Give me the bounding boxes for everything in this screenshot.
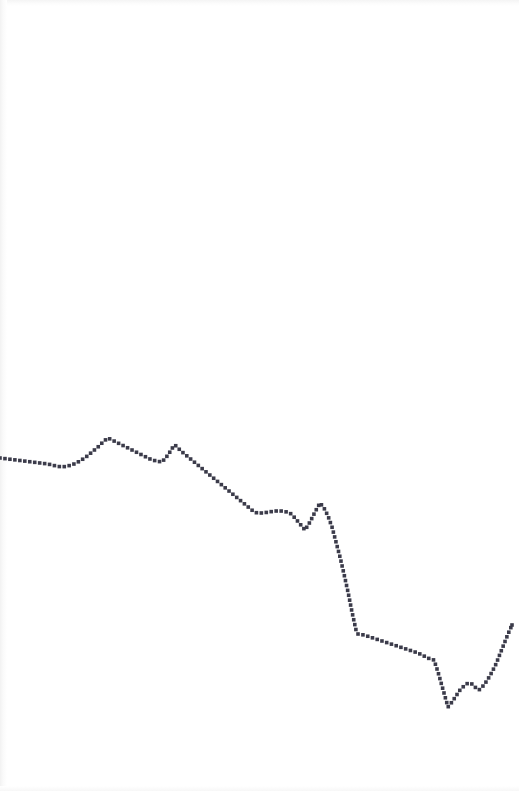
data-point-marker (0, 456, 2, 460)
data-point-marker (458, 689, 462, 693)
data-point-marker (337, 550, 341, 554)
data-point-marker (314, 508, 318, 512)
data-point-marker (250, 508, 254, 512)
data-point-marker (189, 457, 193, 461)
data-point-marker (197, 464, 201, 468)
data-point-marker (347, 593, 351, 597)
data-point-marker (444, 696, 448, 700)
data-point-marker (212, 476, 216, 480)
data-point-marker (354, 628, 358, 632)
data-point-marker (148, 457, 152, 461)
data-point-marker (53, 464, 57, 468)
data-point-marker (481, 684, 485, 688)
chart-figure (0, 0, 519, 791)
data-point-marker (352, 618, 356, 622)
data-point-marker (333, 535, 337, 539)
data-point-marker (413, 650, 417, 654)
data-point-marker (204, 470, 208, 474)
data-point-marker (498, 654, 502, 658)
data-point-marker (130, 448, 134, 452)
data-point-marker (77, 460, 81, 464)
data-point-marker (33, 461, 37, 465)
data-point-marker (494, 663, 498, 667)
data-point-marker (353, 623, 357, 627)
data-point-marker (223, 486, 227, 490)
data-point-marker (432, 658, 436, 662)
data-point-marker (366, 634, 370, 638)
data-point-marker (264, 511, 268, 515)
data-point-marker (227, 489, 231, 493)
data-point-marker (327, 516, 331, 520)
data-point-marker (13, 458, 17, 462)
data-point-marker (174, 444, 178, 448)
data-point-marker (409, 649, 413, 653)
data-point-marker (332, 530, 336, 534)
data-point-marker (399, 646, 403, 650)
data-point-marker (349, 603, 353, 607)
data-point-marker (325, 512, 329, 516)
data-point-marker (487, 676, 491, 680)
data-point-marker (235, 496, 239, 500)
data-point-marker (345, 584, 349, 588)
data-point-marker (356, 632, 360, 636)
data-point-marker (162, 458, 166, 462)
data-point-marker (112, 439, 116, 443)
data-point-marker (93, 448, 97, 452)
data-point-marker (329, 521, 333, 525)
data-point-marker (338, 554, 342, 558)
data-point-marker (496, 658, 500, 662)
data-point-marker (510, 623, 514, 627)
data-point-marker (501, 644, 505, 648)
data-point-marker (181, 451, 185, 455)
data-point-marker (8, 457, 12, 461)
data-point-marker (58, 465, 62, 469)
data-point-marker (126, 446, 130, 450)
data-point-marker (200, 467, 204, 471)
data-point-marker (390, 642, 394, 646)
data-point-marker (279, 509, 283, 513)
data-point-marker (461, 685, 465, 689)
data-point-marker (108, 437, 112, 441)
data-point-marker (48, 463, 52, 467)
data-point-marker (255, 511, 259, 515)
data-point-marker (455, 693, 459, 697)
series-1-marker-group (0, 437, 514, 708)
data-point-marker (284, 510, 288, 514)
data-point-marker (503, 640, 507, 644)
data-point-marker (435, 667, 439, 671)
data-point-marker (484, 680, 488, 684)
data-point-marker (153, 459, 157, 463)
data-point-marker (341, 569, 345, 573)
data-point-marker (139, 453, 143, 457)
data-point-marker (28, 460, 32, 464)
data-point-marker (100, 441, 104, 445)
data-point-marker (351, 613, 355, 617)
data-point-marker (117, 442, 121, 446)
data-point-marker (165, 455, 169, 459)
data-point-marker (434, 662, 438, 666)
data-point-marker (380, 639, 384, 643)
data-point-marker (340, 564, 344, 568)
data-point-marker (158, 460, 162, 464)
data-point-marker (350, 608, 354, 612)
data-point-marker (243, 502, 247, 506)
data-point-marker (422, 654, 426, 658)
data-point-marker (305, 525, 309, 529)
data-point-marker (168, 450, 172, 454)
data-point-marker (23, 459, 27, 463)
data-point-marker (246, 505, 250, 509)
data-point-marker (474, 686, 478, 690)
data-point-marker (289, 512, 293, 516)
data-point-marker (208, 473, 212, 477)
data-point-marker (38, 461, 42, 465)
data-point-marker (450, 701, 454, 705)
data-point-marker (135, 450, 139, 454)
data-point-marker (43, 462, 47, 466)
data-point-marker (185, 454, 189, 458)
data-point-marker (346, 589, 350, 593)
data-point-marker (394, 644, 398, 648)
data-point-marker (310, 517, 314, 521)
data-point-marker (438, 677, 442, 681)
data-point-marker (500, 649, 504, 653)
data-point-marker (3, 457, 7, 461)
